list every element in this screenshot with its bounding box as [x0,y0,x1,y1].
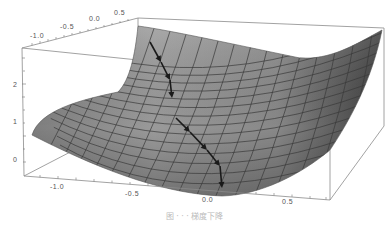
x-back-tick-label: 0.0 [89,15,100,22]
z-tick-label: 2 [13,81,17,88]
x-front-tick-label: 0.0 [202,196,213,203]
x-back-tick-label: -1.0 [30,32,44,39]
x-front-tick-label: -0.5 [125,190,139,197]
z-tick-label: 0 [13,156,17,163]
x-back-tick-label: 0.5 [114,9,125,16]
surface [20,10,389,200]
z-tick-label: 1 [13,118,17,125]
x-back-tick-label: -0.5 [60,23,74,30]
surface-plot: -1.0 -0.5 0.0 0.5 2 1 0 [0,0,389,205]
x-front-tick-label: 0.5 [282,198,293,205]
x-front-tick-label: -1.0 [50,183,64,190]
figure-caption: 图 · · · 梯度下降 [0,210,389,221]
